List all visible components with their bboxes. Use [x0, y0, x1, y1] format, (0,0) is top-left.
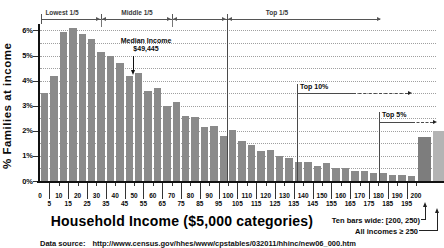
x-tick-label: 75	[177, 200, 184, 207]
x-tick-label: 95	[215, 200, 222, 207]
x-tick-label: 85	[196, 200, 203, 207]
ten-bars-arrow-icon	[423, 202, 427, 207]
top5-arrow-icon	[433, 120, 437, 124]
top-fifth-boundary-line	[227, 19, 228, 181]
x-tick-label: 45	[121, 200, 128, 207]
bracket-arrow-icon	[228, 17, 232, 21]
bracket-drop-line	[172, 19, 173, 27]
x-tick-label: 200	[411, 192, 422, 199]
x-tick	[369, 182, 370, 199]
y-tick-label: 3%	[2, 101, 33, 110]
histogram-bar	[248, 145, 256, 181]
bracket-drop-line	[101, 19, 102, 27]
x-tick	[237, 182, 238, 199]
middle-fifth-label: Middle 1/5	[109, 9, 165, 16]
histogram-bar	[351, 171, 359, 181]
x-tick-label: 0	[38, 192, 42, 199]
histogram-bar	[201, 127, 209, 181]
y-axis-line	[38, 24, 40, 182]
gridline	[40, 43, 436, 44]
income-distribution-histogram: % Families at income 0%1%2%3%4%5%6%01020…	[0, 0, 444, 248]
median-income-label: Median Income $49,445	[106, 37, 186, 53]
x-tick-label: 170	[354, 192, 365, 199]
median-arrow-line	[133, 56, 134, 71]
data-source-url: http://www.census.gov/hhes/www/cpstables…	[92, 239, 356, 248]
bracket-arrow-icon	[167, 17, 171, 21]
x-tick-label: 165	[345, 200, 356, 207]
median-income-value: $49,445	[106, 45, 186, 53]
x-tick	[256, 182, 257, 199]
histogram-bar	[154, 88, 162, 181]
x-tick-label: 190	[392, 192, 403, 199]
histogram-bar	[97, 52, 105, 181]
histogram-bar	[370, 173, 378, 181]
x-tick-label: 180	[373, 192, 384, 199]
histogram-bar	[144, 91, 152, 181]
x-tick-label: 160	[335, 192, 346, 199]
histogram-bar	[332, 168, 340, 181]
all-incomes-connector	[437, 213, 438, 231]
chart-area: 0%1%2%3%4%5%6%01020304050607080901001101…	[0, 0, 444, 248]
x-tick-label: 140	[298, 192, 309, 199]
histogram-bar	[238, 141, 246, 181]
x-tick-label: 120	[260, 192, 271, 199]
top10-boundary-line	[297, 84, 298, 181]
x-tick	[68, 182, 69, 199]
x-tick-label: 70	[168, 192, 175, 199]
top-fifth-label: Top 1/5	[247, 9, 307, 16]
x-tick-label: 130	[279, 192, 290, 199]
histogram-bar	[79, 34, 87, 181]
x-tick	[49, 182, 50, 199]
bracket-arrow-icon	[173, 17, 177, 21]
histogram-bar	[60, 32, 68, 181]
all-incomes-note: All incomes ≥ 250	[315, 227, 418, 236]
y-tick-label: 0%	[2, 177, 33, 186]
x-tick	[313, 182, 314, 199]
x-tick	[219, 182, 220, 199]
histogram-bar	[295, 162, 303, 181]
x-tick-label: 110	[242, 192, 253, 199]
extra-bar-250-plus	[433, 131, 444, 181]
x-tick-label: 10	[55, 192, 62, 199]
x-tick-label: 175	[364, 200, 375, 207]
top10-arrow-icon	[408, 91, 412, 95]
x-tick	[143, 182, 144, 199]
bracket-arrow-icon	[222, 17, 226, 21]
x-tick-label: 60	[149, 192, 156, 199]
x-tick-label: 40	[112, 192, 119, 199]
x-tick	[407, 182, 408, 199]
histogram-bar	[107, 56, 115, 182]
histogram-bar	[126, 76, 134, 181]
x-tick	[275, 182, 276, 199]
histogram-bar	[210, 126, 218, 181]
top5-label: Top 5%	[382, 111, 406, 118]
x-tick	[294, 182, 295, 199]
top10-label: Top 10%	[300, 83, 328, 90]
extra-bar-200-250	[418, 137, 431, 181]
median-arrow-icon	[131, 70, 135, 75]
x-tick-label: 15	[65, 200, 72, 207]
x-tick-label: 55	[140, 200, 147, 207]
histogram-bar	[267, 150, 275, 181]
data-source-line: Data source:http://www.census.gov/hhes/w…	[40, 239, 363, 248]
x-tick	[106, 182, 107, 199]
data-source-label: Data source:	[40, 239, 85, 248]
ten-bars-note: Ten bars wide: [200, 250)	[300, 216, 420, 225]
histogram-bar	[342, 168, 350, 181]
x-tick	[200, 182, 201, 199]
bracket-arrow-icon	[96, 17, 100, 21]
x-tick-label: 30	[93, 192, 100, 199]
y-tick-label: 5%	[2, 51, 33, 60]
x-tick-label: 65	[159, 200, 166, 207]
x-tick-label: 185	[382, 200, 393, 207]
histogram-bar	[163, 106, 171, 181]
all-incomes-arrow-icon	[435, 208, 439, 213]
histogram-bar	[304, 162, 312, 181]
x-tick-label: 150	[317, 192, 328, 199]
x-tick-label: 5	[48, 200, 52, 207]
x-tick-label: 25	[83, 200, 90, 207]
histogram-bar	[173, 102, 181, 181]
x-tick-label: 145	[307, 200, 318, 207]
y-tick-label: 2%	[2, 126, 33, 135]
y-tick-label: 1%	[2, 151, 33, 160]
